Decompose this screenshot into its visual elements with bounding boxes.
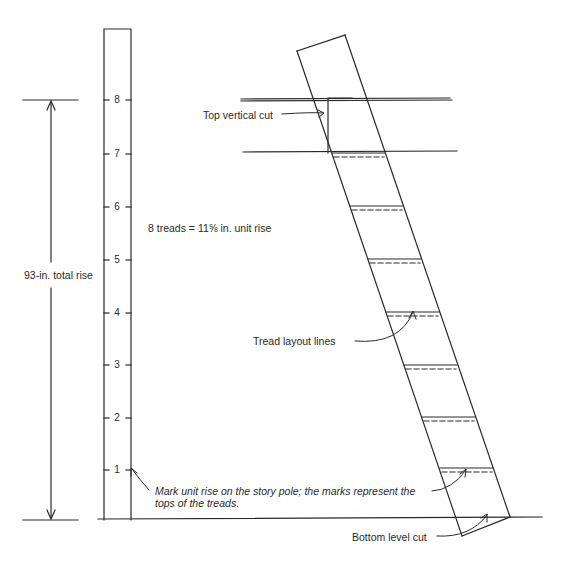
pole-mark-5: 5: [111, 255, 123, 265]
stair-layout-diagram: [0, 0, 564, 567]
floor-line: [98, 517, 542, 519]
unit-rise-label: 8 treads = 11⅝ in. unit rise: [148, 222, 271, 234]
pole-mark-2: 2: [111, 413, 123, 423]
top-vertical-cut: [328, 98, 352, 153]
total-rise-dimension: [23, 100, 78, 520]
top-landing-lines: [241, 98, 457, 152]
bottom-level-cut: [462, 517, 510, 536]
pole-mark-7: 7: [111, 149, 123, 159]
bottom-cut-leader: [437, 515, 487, 536]
bottom-cut-label: Bottom level cut: [352, 531, 427, 543]
tread-lines-label: Tread layout lines: [253, 335, 336, 347]
top-cut-label: Top vertical cut: [203, 109, 273, 121]
mark-note-line1: Mark unit rise on the story pole; the ma…: [155, 485, 415, 497]
stringer: [297, 35, 510, 536]
pole-mark-6: 6: [111, 202, 123, 212]
pole-mark-1: 1: [111, 465, 123, 475]
leader-lines: [131, 110, 487, 536]
mark-note-line2: tops of the treads.: [155, 497, 239, 509]
total-rise-label: 93-in. total rise: [23, 269, 94, 281]
pole-mark-3: 3: [111, 360, 123, 370]
pole-mark-4: 4: [111, 308, 123, 318]
top-cut-leader: [282, 113, 323, 114]
mark-note-leader: [132, 469, 149, 490]
pole-mark-8: 8: [111, 95, 123, 105]
